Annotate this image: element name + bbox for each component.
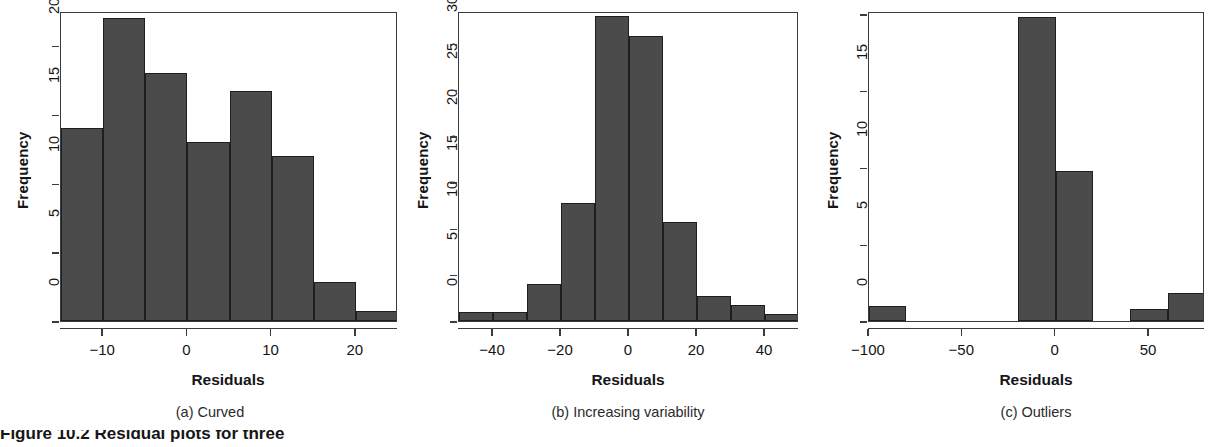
panel-a-subcaption: (a) Curved (176, 404, 245, 420)
x-axis-tick (186, 329, 187, 336)
y-axis-tick-label: 5 (444, 216, 460, 256)
panel-a-x-axis-line (60, 328, 397, 329)
x-axis-tick-label: 0 (624, 341, 632, 358)
x-axis-tick (1147, 329, 1148, 336)
y-axis-tick-label: 20 (46, 0, 62, 26)
x-axis-tick-label: −20 (547, 341, 572, 358)
x-axis-tick-label: 50 (1140, 341, 1157, 358)
y-axis-tick (52, 115, 59, 116)
histogram-bar (61, 128, 103, 321)
y-axis-tick-label: 5 (854, 185, 870, 225)
y-axis-tick (52, 321, 59, 322)
panel-c-y-axis-title: Frequency (824, 131, 841, 209)
y-axis-tick (450, 275, 457, 276)
y-axis-tick-label: 0 (444, 262, 460, 302)
histogram-bar (697, 296, 731, 321)
histogram-bar (1168, 293, 1204, 321)
histogram-bar (765, 314, 798, 321)
y-axis-tick (52, 252, 59, 253)
panel-c-x-axis-line (868, 328, 1204, 329)
histogram-bar (561, 203, 595, 321)
panel-b-plot-area (458, 12, 798, 322)
y-axis-tick-label: 0 (46, 262, 62, 302)
panel-a-y-axis-title: Frequency (14, 131, 31, 209)
histogram-bar (103, 18, 145, 321)
figure-residual-plots: Frequency Residuals (a) Curved 05101520−… (0, 0, 1216, 447)
x-axis-tick-label: 0 (1050, 341, 1058, 358)
x-axis-tick-label: −100 (851, 341, 885, 358)
y-axis-tick-label: 20 (444, 77, 460, 117)
histogram-bar (1018, 17, 1055, 321)
panel-c-plot-area (868, 12, 1204, 322)
y-axis-tick (52, 46, 59, 47)
x-axis-tick-label: 20 (688, 341, 705, 358)
y-axis-tick-label: 10 (444, 169, 460, 209)
histogram-bar (314, 282, 356, 321)
x-axis-tick-label: −40 (479, 341, 504, 358)
y-axis-tick (450, 229, 457, 230)
histogram-bar (459, 312, 493, 321)
y-axis-tick-label: 10 (854, 109, 870, 149)
panel-b-increasing-variability: Frequency Residuals (b) Increasing varia… (400, 0, 810, 447)
x-axis-tick (354, 329, 355, 336)
x-axis-tick (559, 329, 560, 336)
x-axis-tick-label: −10 (89, 341, 114, 358)
y-axis-tick (52, 184, 59, 185)
panel-a-plot-area (60, 12, 397, 322)
x-axis-tick-label: 10 (262, 341, 279, 358)
y-axis-tick-label: 10 (46, 124, 62, 164)
x-axis-tick (101, 329, 102, 336)
y-axis-tick (860, 321, 867, 322)
x-axis-tick-label: 20 (347, 341, 364, 358)
y-axis-tick (450, 321, 457, 322)
histogram-bar (1130, 309, 1167, 321)
x-axis-tick-label: −50 (949, 341, 974, 358)
panel-b-y-axis-title: Frequency (414, 131, 431, 209)
x-axis-tick (961, 329, 962, 336)
x-axis-tick (270, 329, 271, 336)
histogram-bar (272, 156, 314, 321)
histogram-bar (493, 312, 527, 321)
panel-b-subcaption: (b) Increasing variability (551, 404, 704, 420)
y-axis-tick-label: 25 (444, 31, 460, 71)
y-axis-tick-label: 30 (444, 0, 460, 24)
y-axis-tick (450, 44, 457, 45)
x-axis-tick (1054, 329, 1055, 336)
x-axis-tick-label: 0 (182, 341, 190, 358)
y-axis-tick-label: 0 (854, 262, 870, 302)
panel-a-curved: Frequency Residuals (a) Curved 05101520−… (0, 0, 400, 447)
y-axis-tick (450, 136, 457, 137)
y-axis-tick (450, 90, 457, 91)
panel-c-x-axis-title: Residuals (999, 371, 1072, 389)
histogram-bar (629, 36, 663, 321)
histogram-bar (663, 222, 697, 321)
histogram-bar (527, 284, 561, 321)
y-axis-tick (860, 168, 867, 169)
y-axis-tick-label: 15 (46, 55, 62, 95)
y-axis-tick (450, 182, 457, 183)
y-axis-tick-label: 5 (46, 193, 62, 233)
histogram-bar (230, 91, 272, 321)
panel-a-x-axis-title: Residuals (191, 371, 264, 389)
x-axis-tick (867, 329, 868, 336)
histogram-bar (731, 305, 765, 321)
figure-caption-text: Figure 10.2 Residual plots for three (0, 430, 284, 444)
histogram-bar (869, 306, 906, 321)
y-axis-tick (860, 245, 867, 246)
histogram-bar (595, 16, 629, 321)
panel-c-outliers: Frequency Residuals (c) Outliers 0510152… (810, 0, 1216, 447)
histogram-bar (1056, 171, 1093, 321)
y-axis-tick (860, 91, 867, 92)
histogram-bar (145, 73, 187, 321)
panel-b-x-axis-title: Residuals (591, 371, 664, 389)
y-axis-tick-label: 15 (444, 123, 460, 163)
histogram-bar (356, 311, 397, 321)
x-axis-tick (763, 329, 764, 336)
histogram-bar (187, 142, 229, 321)
x-axis-tick (627, 329, 628, 336)
panel-c-subcaption: (c) Outliers (1001, 404, 1072, 420)
y-axis-tick-label: 15 (854, 32, 870, 72)
y-axis-tick (860, 14, 867, 15)
x-axis-tick-label: 40 (756, 341, 773, 358)
x-axis-tick (695, 329, 696, 336)
